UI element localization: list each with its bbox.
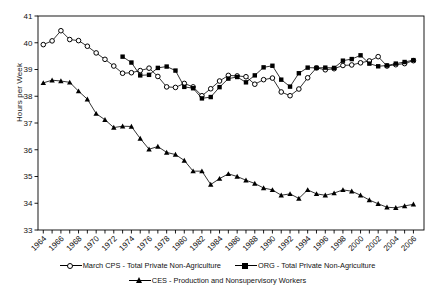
data-point <box>314 191 319 196</box>
data-point <box>261 185 266 190</box>
data-point <box>305 75 310 80</box>
x-tick-label: 1966 <box>47 234 66 253</box>
data-point <box>103 57 108 62</box>
legend-item-march-cps[interactable]: March CPS - Total Private Non-Agricultur… <box>60 261 221 270</box>
data-point <box>93 111 98 116</box>
data-point <box>297 87 302 92</box>
data-point <box>287 191 292 196</box>
x-tick-label: 2006 <box>399 234 418 253</box>
data-point <box>191 86 195 90</box>
data-point <box>209 95 213 99</box>
chart-legend: March CPS - Total Private Non-Agricultur… <box>0 258 435 288</box>
data-point <box>350 57 354 61</box>
data-point <box>94 51 99 56</box>
data-point <box>235 75 239 79</box>
data-point <box>367 197 372 202</box>
data-point <box>164 150 169 155</box>
y-tick-label: 38 <box>24 92 33 101</box>
data-point <box>155 144 160 149</box>
data-point <box>217 79 222 84</box>
series-0 <box>41 28 416 98</box>
data-point <box>173 85 178 90</box>
data-point <box>120 71 125 76</box>
data-point <box>367 61 371 65</box>
data-point <box>182 85 186 89</box>
data-point <box>323 65 327 69</box>
data-point <box>138 68 143 73</box>
data-point <box>279 77 283 81</box>
data-point <box>226 171 231 176</box>
data-point <box>173 68 177 72</box>
data-point <box>111 64 116 69</box>
data-point <box>331 190 336 195</box>
data-point <box>261 65 265 69</box>
x-tick-label: 1984 <box>206 234 225 253</box>
open-circle-marker-icon <box>60 261 82 270</box>
y-tick-label: 35 <box>24 172 33 181</box>
data-point <box>120 54 124 58</box>
legend-item-org[interactable]: ORG - Total Private Non-Agriculture <box>235 261 375 270</box>
data-point <box>156 66 160 70</box>
data-point <box>252 82 257 87</box>
x-tick-label: 1994 <box>294 234 313 253</box>
data-point <box>411 58 415 62</box>
data-point <box>208 182 213 187</box>
data-point <box>376 54 381 59</box>
data-point <box>279 90 284 95</box>
data-point <box>243 178 248 183</box>
x-tick-label: 1974 <box>117 234 136 253</box>
series-line <box>43 80 413 208</box>
data-point <box>217 176 222 181</box>
data-point <box>297 71 301 75</box>
x-tick-label: 1992 <box>276 234 295 253</box>
filled-square-marker-icon <box>235 261 257 270</box>
legend-row-2: CES - Production and Nonsupervisory Work… <box>0 273 435 288</box>
data-point <box>164 64 168 68</box>
data-point <box>270 64 274 68</box>
data-point <box>288 93 293 98</box>
data-point <box>305 65 309 69</box>
data-point <box>261 77 266 82</box>
x-tick-label: 1972 <box>100 234 119 253</box>
y-tick-label: 41 <box>24 12 33 21</box>
data-point <box>385 63 389 67</box>
legend-label-march-cps: March CPS - Total Private Non-Agricultur… <box>83 261 221 270</box>
data-point <box>358 53 362 57</box>
data-point <box>138 73 142 77</box>
data-point <box>129 60 133 64</box>
data-point <box>50 39 55 44</box>
x-tick-label: 1996 <box>311 234 330 253</box>
data-point <box>341 63 346 68</box>
legend-row-1: March CPS - Total Private Non-Agricultur… <box>0 258 435 273</box>
y-tick-label: 34 <box>24 199 33 208</box>
data-point <box>244 74 249 79</box>
x-tick-label: 1968 <box>65 234 84 253</box>
y-tick-label: 33 <box>24 226 33 235</box>
data-point <box>358 193 363 198</box>
data-point <box>76 38 81 43</box>
y-tick-label: 40 <box>24 39 33 48</box>
data-point <box>41 42 46 47</box>
data-point <box>49 78 54 83</box>
data-point <box>314 66 318 70</box>
x-tick-label: 1978 <box>153 234 172 253</box>
legend-item-ces[interactable]: CES - Production and Nonsupervisory Work… <box>129 276 306 285</box>
series-2 <box>41 78 417 210</box>
x-tick-label: 1964 <box>29 234 48 253</box>
plot-area: 3334353637383940411964196619681970197219… <box>0 0 435 295</box>
data-point <box>182 158 187 163</box>
data-point <box>147 73 151 77</box>
data-point <box>147 66 152 71</box>
data-point <box>226 76 230 80</box>
x-tick-label: 1990 <box>258 234 277 253</box>
x-tick-label: 1988 <box>241 234 260 253</box>
data-point <box>59 28 64 33</box>
data-point <box>200 96 204 100</box>
x-tick-label: 1970 <box>82 234 101 253</box>
data-point <box>85 44 90 49</box>
data-point <box>394 61 398 65</box>
legend-label-org: ORG - Total Private Non-Agriculture <box>258 261 375 270</box>
data-point <box>208 86 213 91</box>
y-tick-label: 36 <box>24 146 33 155</box>
filled-triangle-marker-icon <box>129 276 151 285</box>
